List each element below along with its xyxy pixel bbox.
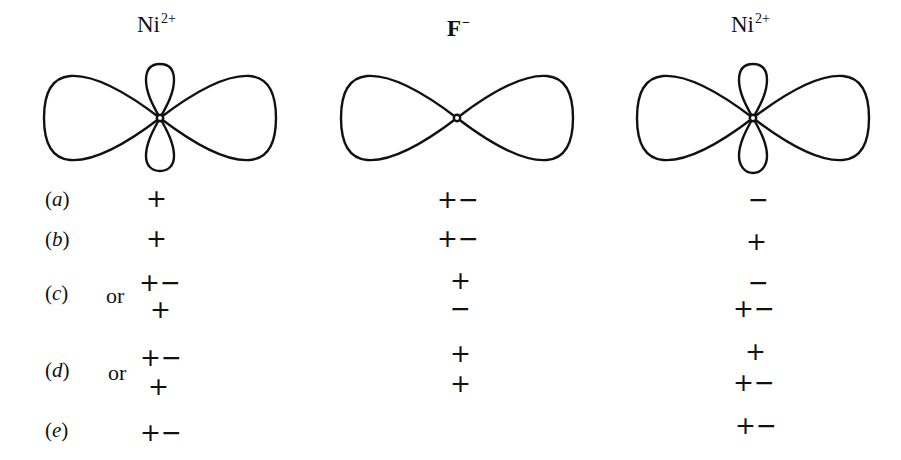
- sign-b-middle: +−: [437, 226, 479, 251]
- or-text-d: or: [108, 362, 126, 384]
- sign-d-right-bottom: +−: [733, 370, 775, 395]
- sign-c-left-bottom: +: [150, 297, 171, 322]
- sign-c-middle-bottom: −: [450, 296, 471, 321]
- orbital-lobes-ni-left: [44, 64, 276, 171]
- sign-e-left: +−: [140, 420, 182, 445]
- row-label-d: (d): [45, 360, 70, 381]
- row-label-b: (b): [45, 229, 70, 250]
- d-orbital-ni-left: [0, 0, 901, 180]
- sign-c-right-bottom: +−: [733, 296, 775, 321]
- row-label-e: (e): [45, 420, 68, 441]
- sign-a-right: −: [748, 187, 769, 212]
- sign-c-left-top: +−: [139, 270, 181, 295]
- sign-d-middle-top: +: [450, 341, 471, 366]
- orbital-lobes-f: [341, 76, 573, 160]
- sign-a-middle: +−: [437, 187, 479, 212]
- sign-b-left: +: [146, 226, 167, 251]
- or-text-c: or: [106, 285, 124, 307]
- sign-c-right-top: −: [748, 270, 769, 295]
- row-label-c: (c): [45, 283, 68, 304]
- sign-d-left-top: +−: [140, 345, 182, 370]
- sign-d-right-top: +: [745, 339, 766, 364]
- sign-b-right: +: [746, 229, 767, 254]
- sign-d-middle-bottom: +: [450, 371, 471, 396]
- row-label-a: (a): [45, 189, 70, 210]
- sign-d-left-bottom: +: [148, 374, 169, 399]
- sign-c-middle-top: +: [450, 268, 471, 293]
- sign-e-right: +−: [735, 413, 777, 438]
- sign-a-left: +: [146, 186, 167, 211]
- orbital-lobes-ni-right: [637, 64, 869, 173]
